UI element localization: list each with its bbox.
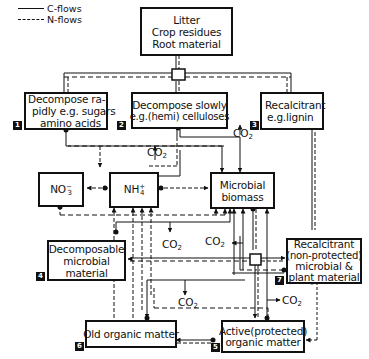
node-number-6: 6 [75, 342, 84, 351]
node-active-protected: Active(protected) organic matter [221, 320, 305, 353]
node-litter: Litter Crop residues Root material [140, 7, 233, 56]
node-old-organic-matter: Old organic matter [85, 320, 177, 348]
node-number-1: 1 [13, 121, 22, 130]
legend: C-flows N-flows [18, 3, 82, 25]
co2-label: CO2 [162, 238, 182, 254]
legend-n-flows: N-flows [18, 14, 82, 25]
co2-label: CO2 [233, 127, 253, 143]
node-number-5: 5 [211, 343, 220, 352]
dashed-line-icon [18, 19, 44, 20]
co2-label: CO2 [282, 294, 302, 310]
node-number-4: 4 [36, 272, 45, 281]
node-nitrate: NO−3 [38, 172, 84, 207]
node-decomposable-microbial: Decomposable microbial material [47, 240, 126, 281]
legend-c-flows: C-flows [18, 3, 82, 14]
node-recalcitrant-lignin: Recalcitrant e.g.lignin [260, 92, 324, 130]
co2-label: CO2 [147, 146, 167, 162]
node-recalcitrant-nonprotected: Recalcitrant (non-protected) microbial &… [286, 238, 362, 284]
node-number-2: 2 [117, 121, 126, 130]
node-number-7: 7 [275, 276, 284, 285]
node-ammonium: NH+4 [109, 172, 159, 208]
litter-splitter [172, 69, 185, 80]
node-microbial-biomass: Microbial biomass [210, 172, 275, 209]
solid-line-icon [18, 8, 44, 9]
co2-label: CO2 [205, 235, 225, 251]
node-decompose-slowly: Decompose slowly e.g.(hemi) celluloses [131, 92, 228, 129]
node-decompose-rapidly: Decompose ra- pidly e.g. sugars amino ac… [24, 92, 108, 130]
co2-label: CO2 [178, 296, 198, 312]
central-hub [250, 254, 261, 265]
